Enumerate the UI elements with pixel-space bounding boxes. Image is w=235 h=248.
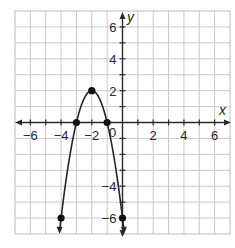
x-axis-label: x <box>218 102 227 118</box>
y-tick-label: −6 <box>102 211 117 226</box>
y-tick-label: −4 <box>102 179 117 194</box>
y-axis-label: y <box>126 9 135 25</box>
y-tick-label: 2 <box>109 84 116 99</box>
curve-left-arrow-icon <box>57 227 63 234</box>
x-tick-label: −4 <box>54 128 69 143</box>
axes <box>15 12 231 237</box>
x-tick-label: 2 <box>150 128 157 143</box>
x-tick-label: 4 <box>180 128 187 143</box>
x-axis-left-arrow-icon <box>15 120 22 126</box>
data-point <box>119 214 126 221</box>
data-point <box>73 119 80 126</box>
x-tick-label: 6 <box>211 128 218 143</box>
y-tick-label: 6 <box>109 20 116 35</box>
x-tick-label: −6 <box>23 128 38 143</box>
data-point <box>57 214 64 221</box>
y-tick-label: 4 <box>109 52 116 67</box>
x-tick-label: −2 <box>84 128 99 143</box>
origin-label: 0 <box>109 125 116 140</box>
y-axis-up-arrow-icon <box>120 12 126 19</box>
data-point <box>88 87 95 94</box>
coordinate-plane-graph: −6−4−2246642−4−6 x y 0 <box>0 0 235 248</box>
